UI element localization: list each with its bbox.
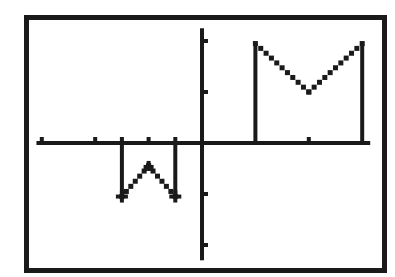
plot-pixel bbox=[124, 189, 129, 194]
plot-pixel bbox=[338, 60, 343, 65]
y-tick bbox=[202, 39, 208, 43]
series-m-shape bbox=[253, 41, 365, 143]
plot-pixel bbox=[344, 56, 349, 61]
x-tick bbox=[173, 137, 177, 142]
plot-pixel bbox=[133, 179, 138, 184]
x-tick bbox=[120, 137, 124, 142]
plot-pixel bbox=[253, 41, 258, 46]
plot-pixel bbox=[128, 184, 133, 189]
vertical-segment bbox=[360, 44, 364, 143]
vertical-segment bbox=[253, 44, 257, 143]
plot-pixel bbox=[264, 51, 269, 56]
plot-pixel bbox=[137, 174, 142, 179]
peak-marker bbox=[147, 161, 151, 166]
x-tick bbox=[147, 137, 151, 142]
plot-pixel bbox=[296, 80, 301, 85]
plot-pixel bbox=[328, 70, 333, 75]
plot-pixel bbox=[274, 60, 279, 65]
plot-pixel bbox=[333, 65, 338, 70]
series-w-shape bbox=[116, 143, 181, 203]
plot-pixel bbox=[306, 90, 311, 95]
plot-pixel bbox=[290, 75, 295, 80]
plot-pixel bbox=[280, 65, 285, 70]
plot-pixel bbox=[322, 75, 327, 80]
plot-pixel bbox=[155, 174, 160, 179]
plot-pixel bbox=[164, 184, 169, 189]
x-tick bbox=[40, 137, 44, 142]
x-tick bbox=[93, 137, 97, 142]
vertical-segment bbox=[120, 143, 124, 197]
plot-pixel bbox=[317, 80, 322, 85]
plot-pixel bbox=[159, 179, 164, 184]
y-axis bbox=[200, 28, 204, 260]
plot-pixel bbox=[349, 51, 354, 56]
graph-canvas bbox=[0, 0, 395, 277]
plot-pixel bbox=[269, 56, 274, 61]
vertical-segment bbox=[173, 143, 177, 197]
y-tick bbox=[202, 192, 208, 196]
y-tick bbox=[202, 243, 208, 247]
plot-series bbox=[116, 41, 365, 203]
plot-pixel bbox=[312, 85, 317, 90]
corner-marker bbox=[173, 191, 177, 203]
plot-pixel bbox=[285, 70, 290, 75]
plot-pixel bbox=[168, 189, 173, 194]
x-tick bbox=[307, 137, 311, 142]
axes bbox=[36, 28, 370, 260]
plot-pixel bbox=[258, 46, 263, 51]
corner-marker bbox=[120, 191, 124, 203]
y-tick bbox=[202, 90, 208, 94]
plot-pixel bbox=[354, 46, 359, 51]
plot-pixel bbox=[301, 85, 306, 90]
